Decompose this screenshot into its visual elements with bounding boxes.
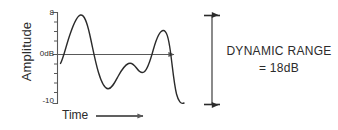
y-tick-label-top: 8 bbox=[30, 8, 54, 17]
dynamic-range-title: DYNAMIC RANGE bbox=[226, 44, 332, 58]
dynamic-range-annotation: DYNAMIC RANGE = 18dB bbox=[226, 44, 332, 75]
dynamic-range-figure: Amplitude 8 0dB -10 Time DYNAMIC RANGE =… bbox=[0, 0, 338, 130]
x-axis-label: Time bbox=[62, 108, 88, 122]
y-tick-label-zero: 0dB bbox=[26, 49, 54, 58]
waveform-trace bbox=[61, 15, 185, 103]
y-tick-label-bottom: -10 bbox=[26, 96, 54, 105]
dynamic-range-value: = 18dB bbox=[226, 61, 332, 75]
dynamic-range-indicator bbox=[204, 15, 220, 105]
y-axis-ticks bbox=[53, 13, 58, 104]
